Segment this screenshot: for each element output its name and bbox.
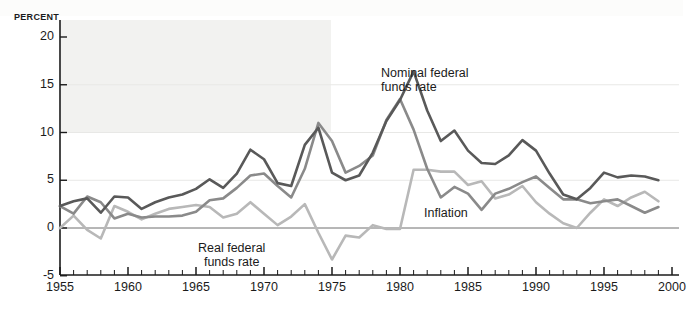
x-tick-label: 2000: [642, 280, 691, 294]
x-tick-label: 1985: [438, 280, 498, 294]
nominal-label-line2: funds rate: [381, 80, 469, 94]
inflation-label-line1: Inflation: [424, 206, 468, 220]
x-tick-label: 1955: [30, 280, 90, 294]
y-tick-label: 10: [10, 125, 54, 139]
y-tick-label: 0: [10, 220, 54, 234]
x-tick-label: 1980: [370, 280, 430, 294]
x-tick-label: 1965: [166, 280, 226, 294]
x-tick-label: 1990: [506, 280, 566, 294]
x-tick-label: 1995: [574, 280, 634, 294]
x-tick-label: 1975: [302, 280, 362, 294]
x-tick-label: 1970: [234, 280, 294, 294]
x-tick-label: 1960: [98, 280, 158, 294]
real-label-line2: funds rate: [198, 255, 265, 269]
y-axis-unit-label: PERCENT: [14, 12, 59, 22]
series-line: [60, 170, 658, 260]
inflation-label: Inflation: [424, 206, 468, 220]
real-federal-funds-rate-label: Real federal funds rate: [198, 241, 265, 269]
real-label-line1: Real federal: [198, 241, 265, 255]
y-tick-label: 15: [10, 77, 54, 91]
plot-tint: [0, 0, 683, 132]
nominal-federal-funds-rate-label: Nominal federal funds rate: [381, 66, 469, 94]
y-tick-label: 20: [10, 29, 54, 43]
nominal-label-line1: Nominal federal: [381, 66, 469, 80]
y-tick-label: 5: [10, 172, 54, 186]
